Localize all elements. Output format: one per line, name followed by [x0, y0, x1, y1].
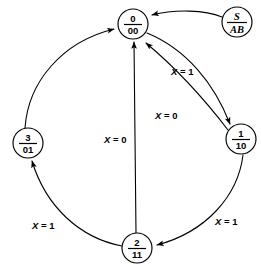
edge-label-eq: = — [38, 220, 49, 231]
edge-label-val: 1 — [49, 220, 54, 231]
edge-label-val: 1 — [232, 216, 237, 227]
edge-init-to-state0 — [152, 11, 222, 17]
edge-label-eq: = — [177, 66, 188, 77]
edge-label-eq: = — [110, 134, 121, 145]
state-node-3-output: 01 — [23, 144, 34, 155]
state-node-initial-output: AB — [229, 24, 244, 35]
state-node-initial[interactable]: S AB — [222, 7, 252, 37]
state-node-1[interactable]: 1 10 — [226, 124, 256, 154]
edge-state2-to-state0 — [134, 42, 136, 233]
edge-state3-to-state0 — [25, 29, 114, 128]
edge-label-val: 0 — [121, 134, 126, 145]
edge-label-state1-to-state2: X = 1 — [215, 216, 237, 227]
state-node-0[interactable]: 0 00 — [118, 9, 148, 39]
edge-label-eq: = — [161, 110, 172, 121]
edge-label-state2-to-state3: X = 1 — [32, 220, 54, 231]
state-node-2[interactable]: 2 11 — [122, 233, 152, 263]
edge-label-val: 1 — [188, 66, 193, 77]
state-node-initial-id: S — [234, 11, 240, 22]
edge-label-state1-to-state0: X = 0 — [155, 110, 177, 121]
state-node-1-id: 1 — [238, 128, 244, 139]
edge-label-state2-to-state0: X = 0 — [104, 134, 126, 145]
edge-state1-to-state2 — [157, 155, 243, 245]
edge-label-state0-to-state1: X = 1 — [171, 66, 193, 77]
edge-label-eq: = — [221, 216, 232, 227]
state-node-3-id: 3 — [25, 132, 30, 143]
state-diagram-canvas: 0 00 1 10 2 11 3 01 S — [0, 0, 261, 272]
state-node-2-id: 2 — [134, 237, 139, 248]
state-node-2-output: 11 — [132, 249, 143, 260]
state-node-3[interactable]: 3 01 — [13, 128, 43, 158]
state-node-1-output: 10 — [236, 140, 247, 151]
state-node-0-output: 00 — [128, 25, 139, 36]
edge-label-val: 0 — [172, 110, 177, 121]
state-node-0-id: 0 — [130, 13, 135, 24]
state-diagram-svg: 0 00 1 10 2 11 3 01 S — [0, 0, 261, 272]
edge-state2-to-state3 — [32, 161, 122, 246]
